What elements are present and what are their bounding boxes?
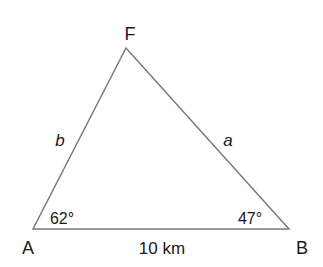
angle-label-b: 47°	[238, 210, 262, 227]
angle-label-a: 62°	[50, 210, 74, 227]
triangle-diagram: F A B b a 10 km 62° 47°	[0, 0, 323, 267]
side-label-base-ab: 10 km	[139, 239, 185, 258]
triangle-afb	[33, 48, 289, 229]
vertex-label-b: B	[296, 238, 308, 258]
vertex-label-f: F	[125, 24, 136, 44]
side-label-b: b	[55, 131, 64, 150]
vertex-label-a: A	[22, 238, 34, 258]
side-label-a: a	[223, 131, 232, 150]
